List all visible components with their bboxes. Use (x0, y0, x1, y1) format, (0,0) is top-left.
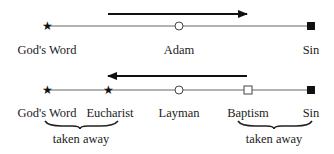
open-circle-icon (175, 86, 183, 94)
top-row: ★ (42, 14, 316, 33)
node-label-baptism: Baptism (227, 107, 269, 120)
star-icon: ★ (103, 83, 114, 97)
node-label-sin: Sin (303, 44, 320, 57)
filled-square-icon (307, 22, 315, 30)
underbrace-left (45, 121, 118, 129)
filled-square-icon (307, 86, 315, 94)
diagram-canvas: ★ ★ ★ (0, 0, 334, 154)
brace-label-taken-away: taken away (246, 133, 303, 146)
open-circle-icon (175, 22, 183, 30)
node-label-layman: Layman (159, 107, 200, 120)
node-label-eucharist: Eucharist (86, 107, 133, 120)
brace-label-taken-away: taken away (53, 133, 110, 146)
underbrace-right (238, 121, 312, 129)
bottom-row: ★ ★ (42, 76, 316, 129)
node-label-sin: Sin (303, 107, 320, 120)
star-icon: ★ (42, 19, 53, 33)
node-label-adam: Adam (164, 44, 195, 57)
node-label-gods-word: God's Word (17, 44, 76, 57)
star-icon: ★ (42, 83, 53, 97)
node-label-gods-word: God's Word (17, 107, 76, 120)
open-square-icon (244, 86, 252, 94)
